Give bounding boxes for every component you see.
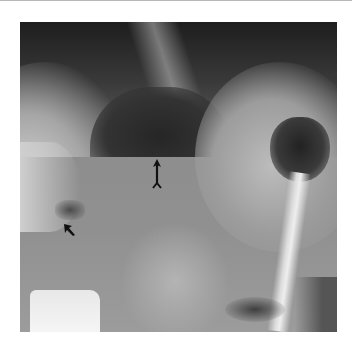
top-divider [0, 0, 352, 1]
small-air-pocket [55, 200, 85, 220]
arrow-up-left-icon [63, 223, 77, 237]
bottom-dark-lucency [225, 297, 285, 322]
spine-shadow [120, 222, 230, 332]
arrow-up-icon [149, 157, 165, 189]
xray-image [20, 22, 337, 332]
bottom-left-dense-area [30, 290, 100, 332]
bottom-right-shadow [295, 277, 337, 332]
